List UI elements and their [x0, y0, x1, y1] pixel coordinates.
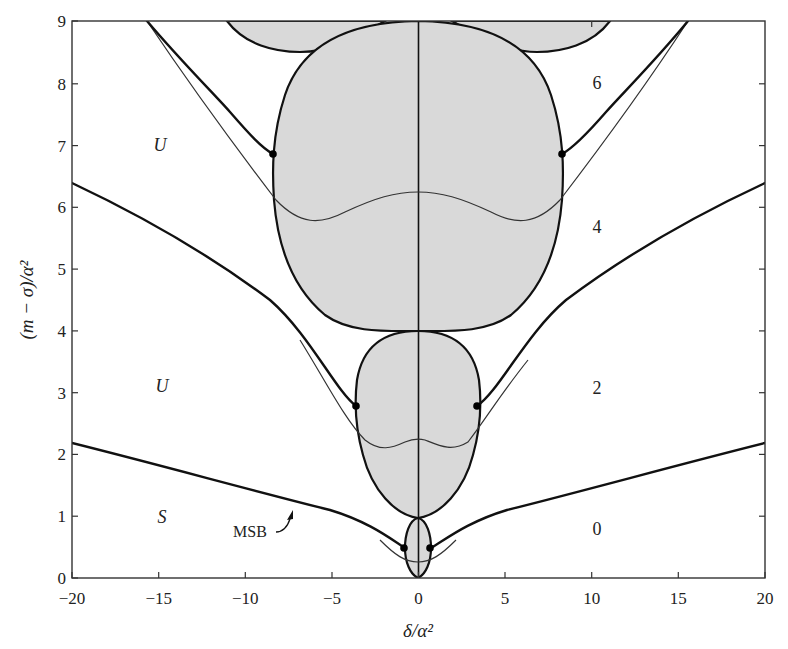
- y-axis-title: (m − σ)/α²: [16, 260, 38, 339]
- marked-point: [269, 150, 277, 158]
- x-tick-label: 10: [583, 589, 600, 608]
- y-tick-label: 6: [58, 198, 67, 217]
- plot-area: [72, 21, 765, 578]
- region-label-6: 6: [593, 73, 602, 93]
- region-label-0: 0: [593, 519, 602, 539]
- x-tick-label: 5: [501, 589, 510, 608]
- y-tick-label: 4: [58, 322, 67, 341]
- y-tick-label: 2: [58, 445, 67, 464]
- x-axis: [72, 572, 765, 578]
- region-label-S: S: [158, 507, 167, 527]
- region-label-2: 2: [593, 378, 602, 398]
- marked-point: [426, 544, 434, 552]
- x-tick-label: 0: [414, 589, 423, 608]
- y-tick-label: 3: [58, 384, 67, 403]
- y-tick-label: 9: [58, 12, 67, 31]
- y-tick-label: 0: [58, 569, 67, 588]
- region-label-U-lower: U: [156, 376, 170, 396]
- marked-point: [558, 150, 566, 158]
- x-tick-label: −20: [59, 589, 86, 608]
- marked-point: [400, 544, 408, 552]
- x-axis-title: δ/α²: [403, 620, 433, 641]
- y-tick-label: 1: [58, 507, 67, 526]
- x-tick-labels: −20 −15 −10 −5 0 5 10 15 20: [59, 589, 774, 608]
- y-tick-label: 8: [58, 75, 67, 94]
- y-tick-label: 7: [58, 137, 67, 156]
- msb-arrow-icon: [276, 519, 290, 532]
- y-tick-label: 5: [58, 260, 67, 279]
- x-tick-label: 20: [757, 589, 774, 608]
- x-tick-label: 15: [670, 589, 687, 608]
- marked-point: [352, 402, 360, 410]
- y-tick-labels: 0 1 2 3 4 5 6 7 8 9: [58, 12, 67, 588]
- marked-point: [473, 402, 481, 410]
- region-label-U-upper: U: [154, 135, 168, 155]
- stability-diagram-chart: −20 −15 −10 −5 0 5 10 15 20 0 1 2 3 4: [0, 0, 788, 649]
- x-tick-label: −10: [232, 589, 259, 608]
- region-label-4: 4: [593, 217, 602, 237]
- x-tick-label: −5: [323, 589, 341, 608]
- x-tick-label: −15: [145, 589, 172, 608]
- msb-arrowhead-icon: [287, 510, 293, 520]
- msb-annotation: MSB: [233, 523, 267, 540]
